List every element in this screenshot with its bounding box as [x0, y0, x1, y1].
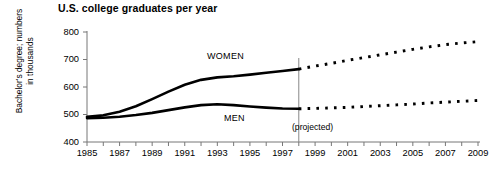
y-tick-label: 400 — [49, 138, 79, 147]
y-tick-label: 500 — [49, 110, 79, 119]
x-tick-label: 2009 — [458, 149, 498, 158]
y-tick-label: 800 — [49, 28, 79, 37]
y-tick-label: 700 — [49, 55, 79, 64]
projected-note: (projected) — [292, 122, 333, 132]
series-line-women — [87, 69, 299, 117]
series-projection-women — [299, 42, 478, 69]
chart-tick-marks — [83, 32, 478, 146]
chart-figure: U.S. college graduates per year Bachelor… — [0, 0, 499, 175]
series-projection-men — [299, 100, 478, 108]
chart-series-group — [87, 42, 478, 118]
series-label-women: WOMEN — [207, 51, 244, 61]
series-label-men: MEN — [224, 113, 245, 123]
y-tick-label: 600 — [49, 83, 79, 92]
